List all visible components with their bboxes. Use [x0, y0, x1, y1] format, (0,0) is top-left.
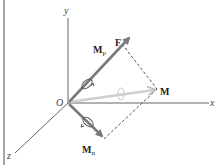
x-axis-label: x [209, 97, 215, 108]
z-axis-label: z [6, 150, 11, 161]
origin-label: O [56, 97, 63, 108]
y-axis-label: y [63, 5, 69, 16]
moment-vector-mn [69, 104, 102, 136]
moment-diagram: y x z O F M Mp Mn [0, 0, 217, 165]
parallel-moment-label: Mp [93, 44, 106, 57]
moment-label: M [160, 86, 170, 97]
dashed-line-upper [122, 44, 157, 89]
force-label: F [115, 37, 121, 48]
z-axis [15, 103, 68, 153]
normal-moment-label: Mn [82, 144, 95, 157]
coordinate-axes [15, 18, 209, 153]
